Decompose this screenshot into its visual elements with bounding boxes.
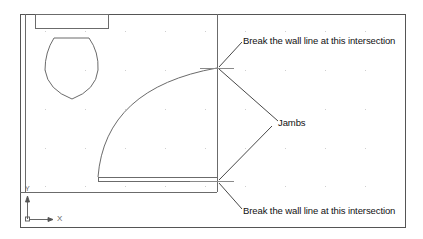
annotation-jambs: Jambs — [278, 117, 305, 128]
door-swing-arc — [98, 68, 217, 177]
ucs-x-label: X — [57, 214, 62, 223]
toilet-bowl — [45, 38, 98, 99]
leader-lines — [219, 42, 278, 209]
toilet-tank — [36, 15, 109, 29]
annotation-top-break: Break the wall line at this intersection — [243, 35, 395, 46]
annotation-bottom-break: Break the wall line at this intersection — [243, 205, 395, 216]
grid-dots — [45, 31, 366, 187]
viewport-frame — [21, 15, 406, 228]
ucs-y-label: Y — [25, 185, 30, 192]
walls — [20, 14, 218, 193]
ucs-icon — [26, 196, 54, 222]
door-panel — [99, 178, 218, 182]
